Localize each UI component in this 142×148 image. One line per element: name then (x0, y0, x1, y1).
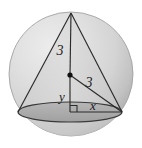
label-slant-height: 3 (56, 43, 64, 58)
label-cone-radius: x (89, 98, 96, 113)
label-cone-height: y (57, 89, 65, 104)
figure-canvas: 3 3 y x (0, 0, 142, 148)
sphere-center-dot (67, 72, 72, 77)
cone-in-sphere-figure: 3 3 y x (0, 0, 142, 148)
label-sphere-radius: 3 (85, 75, 93, 90)
